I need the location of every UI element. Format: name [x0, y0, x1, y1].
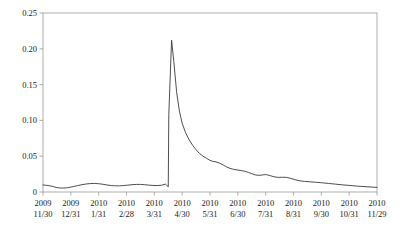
y-tick-label: 0.25 [22, 8, 37, 18]
x-tick-label-year: 2010 [285, 198, 302, 208]
x-tick-label-date: 1/31 [91, 209, 106, 219]
x-tick-label-year: 2009 [35, 198, 52, 208]
y-tick-label: 0.20 [22, 44, 37, 54]
x-tick-label-year: 2010 [146, 198, 163, 208]
x-tick-label-date: 8/31 [286, 209, 301, 219]
x-tick-label-year: 2010 [202, 198, 219, 208]
x-tick-label-year: 2010 [118, 198, 135, 208]
x-tick-label-date: 11/29 [367, 209, 386, 219]
x-tick-label-year: 2010 [341, 198, 358, 208]
x-tick-label-year: 2010 [229, 198, 246, 208]
x-axis-ticks [43, 192, 377, 196]
x-tick-label-date: 12/31 [61, 209, 80, 219]
plot-frame [43, 13, 377, 192]
x-tick-label-year: 2010 [257, 198, 274, 208]
x-tick-label-date: 5/31 [202, 209, 217, 219]
y-tick-label: 0.05 [22, 151, 37, 161]
x-tick-label-year: 2010 [369, 198, 386, 208]
x-tick-label-date: 9/30 [314, 209, 329, 219]
y-tick-label: 0.15 [22, 80, 37, 90]
x-tick-label-date: 3/31 [147, 209, 162, 219]
data-series-group [43, 40, 377, 188]
x-tick-label-year: 2010 [174, 198, 191, 208]
series-line-value [43, 40, 377, 188]
x-tick-label-date: 10/31 [339, 209, 358, 219]
x-tick-label-year: 2009 [62, 198, 79, 208]
y-tick-label: 0 [33, 187, 37, 197]
y-tick-label: 0.10 [22, 115, 37, 125]
x-tick-label-date: 11/30 [33, 209, 52, 219]
x-tick-label-year: 2010 [313, 198, 330, 208]
x-tick-label-date: 4/30 [175, 209, 190, 219]
y-axis-ticks [40, 13, 44, 192]
y-axis-tick-labels: 00.050.100.150.200.25 [22, 8, 37, 197]
x-tick-label-date: 2/28 [119, 209, 134, 219]
x-tick-label-date: 7/31 [258, 209, 273, 219]
plot-area-border [43, 13, 377, 192]
chart-container: 00.050.100.150.200.25 200911/30200912/31… [0, 0, 402, 232]
line-chart: 00.050.100.150.200.25 200911/30200912/31… [0, 0, 402, 232]
x-axis-tick-labels: 200911/30200912/3120101/3120102/2820103/… [33, 198, 386, 219]
x-tick-label-date: 6/30 [230, 209, 245, 219]
x-tick-label-year: 2010 [90, 198, 107, 208]
